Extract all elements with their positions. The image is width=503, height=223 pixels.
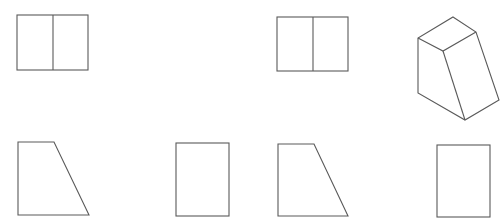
outline <box>437 145 490 217</box>
outline <box>278 144 348 216</box>
bottom-row-views <box>18 142 490 217</box>
silhouette <box>418 17 499 120</box>
isometric-solid <box>418 17 499 120</box>
view-a-side <box>176 143 229 216</box>
top-row-views <box>17 15 499 120</box>
view-a-front <box>18 142 89 215</box>
view-a-top <box>17 15 88 70</box>
view-b-side <box>437 145 490 217</box>
view-b-top <box>277 17 348 71</box>
top-face-edges <box>418 32 476 51</box>
three-view-diagram <box>0 0 503 223</box>
outline <box>18 142 89 215</box>
outline <box>176 143 229 216</box>
view-b-front <box>278 144 348 216</box>
